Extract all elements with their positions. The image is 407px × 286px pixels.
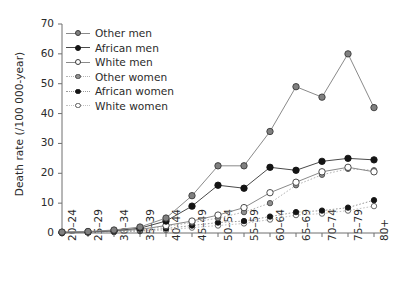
- data-point: [267, 189, 273, 195]
- data-point: [345, 155, 351, 161]
- data-point: [111, 227, 117, 233]
- data-point: [319, 169, 325, 175]
- line-chart: Death rate (/100 000-year) 0102030405060…: [0, 0, 407, 286]
- plot-area: [0, 0, 407, 286]
- data-point: [189, 203, 195, 209]
- data-point: [163, 215, 169, 221]
- data-point: [215, 182, 221, 188]
- legend-marker-icon: [66, 27, 90, 40]
- data-point: [319, 158, 325, 164]
- legend-marker-icon: [66, 85, 90, 98]
- data-point: [293, 167, 299, 173]
- legend-item-african-men: African men: [66, 41, 174, 56]
- legend-item-other-women: Other women: [66, 70, 174, 85]
- data-point: [267, 214, 272, 219]
- data-point: [293, 209, 298, 214]
- data-point: [137, 224, 143, 230]
- data-point: [241, 163, 247, 169]
- data-point: [345, 164, 351, 170]
- data-point: [189, 192, 195, 198]
- data-point: [371, 203, 376, 208]
- data-point: [241, 218, 246, 223]
- legend-label: Other men: [90, 27, 152, 39]
- data-point: [59, 229, 65, 235]
- legend-item-white-women: White women: [66, 99, 174, 114]
- legend-marker-icon: [66, 56, 90, 69]
- data-point: [293, 84, 299, 90]
- legend-label: Other women: [90, 71, 167, 83]
- data-point: [189, 218, 195, 224]
- data-point: [371, 197, 376, 202]
- data-point: [267, 164, 273, 170]
- data-point: [319, 208, 324, 213]
- legend-item-other-men: Other men: [66, 26, 174, 41]
- data-point: [371, 169, 377, 175]
- data-point: [85, 228, 91, 234]
- data-point: [345, 205, 350, 210]
- data-point: [241, 185, 247, 191]
- data-point: [267, 200, 272, 205]
- data-point: [241, 204, 247, 210]
- chart-legend: Other menAfrican menWhite menOther women…: [66, 26, 174, 113]
- legend-label: African women: [90, 85, 174, 97]
- legend-marker-icon: [66, 41, 90, 54]
- legend-marker-icon: [66, 99, 90, 112]
- legend-marker-icon: [66, 70, 90, 83]
- data-point: [267, 128, 273, 134]
- data-point: [215, 212, 221, 218]
- data-point: [293, 179, 299, 185]
- data-point: [215, 163, 221, 169]
- legend-item-white-men: White men: [66, 55, 174, 70]
- data-point: [319, 94, 325, 100]
- legend-label: African men: [90, 42, 159, 54]
- data-point: [371, 157, 377, 163]
- legend-label: White men: [90, 56, 153, 68]
- data-point: [345, 51, 351, 57]
- legend-item-african-women: African women: [66, 84, 174, 99]
- data-point: [371, 104, 377, 110]
- legend-label: White women: [90, 100, 168, 112]
